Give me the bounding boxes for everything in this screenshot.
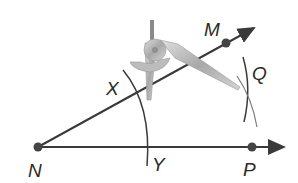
point-m (222, 39, 231, 48)
point-n (34, 143, 43, 152)
compass-icon (130, 20, 240, 100)
point-p (248, 143, 257, 152)
label-m: M (204, 19, 220, 40)
label-y: Y (152, 154, 166, 175)
label-n: N (28, 160, 42, 181)
label-q: Q (252, 63, 267, 84)
compass-construction-diagram: M Q X Y N P (0, 0, 298, 183)
arc-xy (123, 70, 148, 166)
label-x: X (105, 78, 120, 99)
label-p: P (243, 159, 256, 180)
